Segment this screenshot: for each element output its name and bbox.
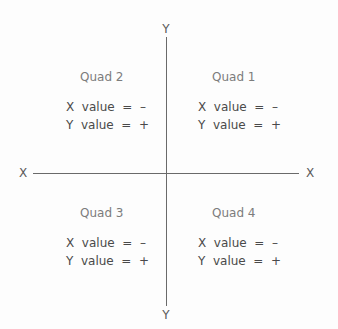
quadrant-4: Quad 4 X value = – Y value = +	[198, 206, 308, 270]
quadrant-2-x-value: X value = –	[66, 98, 176, 116]
quadrant-diagram: Y Y X X Quad 2 X value = – Y value = + Q…	[0, 0, 338, 329]
quadrant-2-y-value: Y value = +	[66, 116, 176, 134]
quadrant-3-x-value: X value = –	[66, 234, 176, 252]
quadrant-1-x-value: X value = –	[198, 98, 308, 116]
quadrant-4-values: X value = – Y value = +	[198, 234, 308, 270]
y-axis-label-top: Y	[159, 22, 173, 36]
quadrant-3-values: X value = – Y value = +	[66, 234, 176, 270]
quadrant-4-title: Quad 4	[212, 206, 308, 220]
quadrant-1: Quad 1 X value = – Y value = +	[198, 70, 308, 134]
x-axis-label-left: X	[16, 166, 30, 180]
y-axis-label-bottom: Y	[159, 308, 173, 322]
quadrant-3-title: Quad 3	[80, 206, 176, 220]
quadrant-3: Quad 3 X value = – Y value = +	[66, 206, 176, 270]
quadrant-4-x-value: X value = –	[198, 234, 308, 252]
x-axis-label-right: X	[303, 166, 317, 180]
quadrant-1-y-value: Y value = +	[198, 116, 308, 134]
quadrant-4-y-value: Y value = +	[198, 252, 308, 270]
quadrant-2-values: X value = – Y value = +	[66, 98, 176, 134]
quadrant-2-title: Quad 2	[80, 70, 176, 84]
quadrant-2: Quad 2 X value = – Y value = +	[66, 70, 176, 134]
quadrant-1-values: X value = – Y value = +	[198, 98, 308, 134]
quadrant-1-title: Quad 1	[212, 70, 308, 84]
quadrant-3-y-value: Y value = +	[66, 252, 176, 270]
